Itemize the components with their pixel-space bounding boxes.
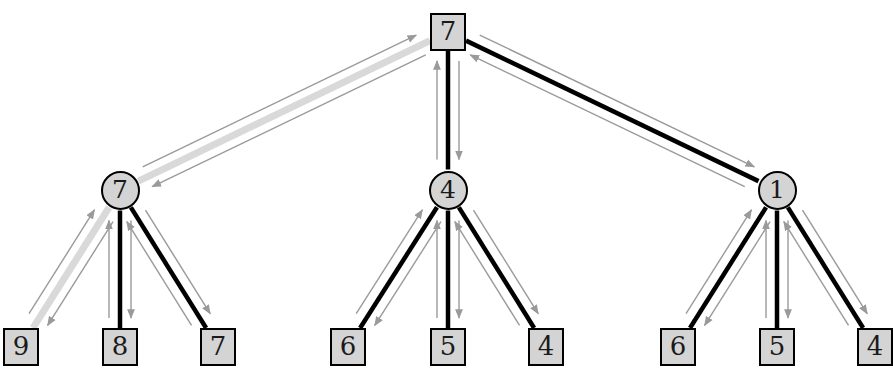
node-label: 7: [210, 333, 227, 359]
tree-node-l4: 6: [330, 328, 366, 366]
tree-edge-root-m1: [138, 41, 430, 181]
tree-edge-m3-l7: [690, 207, 766, 328]
message-arrow-up-root-m3: [470, 55, 744, 187]
tree-edge-m2-l4: [360, 207, 437, 328]
tree-node-m1: 7: [101, 171, 140, 210]
message-arrow-up-m2-l4: [356, 210, 422, 314]
tree-node-m2: 4: [429, 171, 468, 210]
tree-edge-root-m3: [466, 41, 759, 181]
message-arrow-down-m2-l4: [375, 222, 441, 326]
tree-node-l2: 8: [102, 328, 138, 366]
node-label: 6: [340, 333, 357, 359]
node-label: 5: [440, 333, 457, 359]
message-arrow-up-m3-l7: [686, 210, 751, 314]
message-arrow-down-m3-l9: [802, 210, 867, 314]
tree-node-l5: 5: [430, 328, 466, 366]
node-label: 8: [112, 333, 129, 359]
message-arrow-up-m1-l1: [29, 210, 94, 314]
tree-node-l9: 4: [857, 328, 893, 366]
tree-node-l7: 6: [660, 328, 696, 366]
message-arrow-down-m1-l1: [48, 222, 113, 326]
node-label: 4: [867, 333, 884, 359]
message-arrow-down-root-m3: [480, 35, 754, 167]
tree-edge-m1-l1: [33, 207, 109, 328]
tree-node-l1: 9: [3, 328, 39, 366]
node-label: 5: [769, 333, 786, 359]
message-arrow-down-m2-l6: [473, 210, 538, 314]
message-arrow-down-root-m1: [152, 55, 426, 187]
message-arrow-up-m3-l9: [784, 222, 849, 326]
tree-node-l8: 5: [759, 328, 795, 366]
node-label: 4: [538, 333, 555, 359]
node-label: 1: [769, 177, 785, 202]
message-arrow-down-m1-l3: [145, 210, 210, 314]
message-arrow-up-root-m1: [143, 35, 417, 167]
tree-edge-m1-l3: [131, 207, 206, 328]
node-label: 7: [112, 177, 128, 202]
tree-node-m3: 1: [758, 171, 797, 210]
node-label: 7: [440, 18, 457, 44]
message-arrow-up-m1-l3: [127, 222, 192, 326]
node-label: 9: [13, 333, 30, 359]
tree-node-l3: 7: [200, 328, 236, 366]
tree-edge-m3-l9: [788, 207, 863, 328]
message-arrow-down-m3-l7: [705, 222, 770, 326]
node-label: 4: [440, 177, 456, 202]
node-label: 6: [670, 333, 687, 359]
tree-node-root: 7: [430, 13, 466, 51]
tree-node-l6: 4: [528, 328, 564, 366]
message-arrow-up-m2-l6: [455, 222, 520, 326]
tree-edge-m2-l6: [459, 207, 534, 328]
